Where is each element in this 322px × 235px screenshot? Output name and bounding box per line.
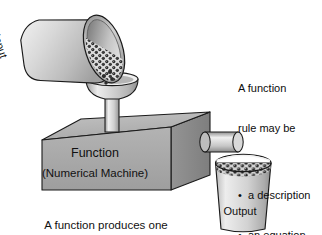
rule-heading-line2: rule may be (238, 122, 310, 135)
rule-heading-line1: A function (238, 82, 310, 95)
rule-list-item: an equation (238, 229, 310, 235)
output-spout (200, 132, 243, 152)
rule-list-item: a description (238, 189, 310, 202)
function-machine-figure: Input Domain x Function (Numerical Machi… (0, 0, 322, 235)
caption-line1: A function produces one (6, 218, 206, 232)
input-cup-line1: Input (0, 26, 12, 66)
function-rule-block: A function rule may be a description an … (238, 55, 310, 235)
machine-name: Function (0, 146, 190, 161)
figure-caption: A function produces one output for every… (6, 189, 206, 235)
machine-subtitle: (Numerical Machine) (0, 166, 190, 180)
rule-list: a description an equation a table a grap… (238, 162, 310, 235)
